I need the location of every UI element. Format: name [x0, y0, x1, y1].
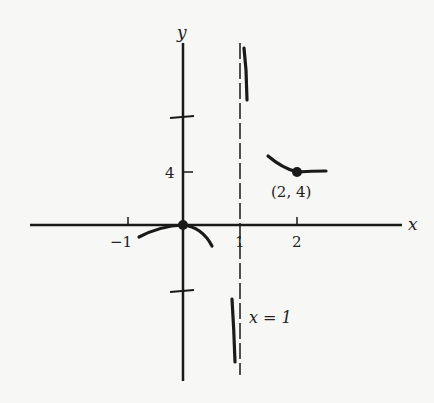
y-axis-break-upper — [170, 116, 194, 118]
y-axis-break-lower — [170, 290, 194, 292]
x-tick-label-neg1: −1 — [110, 233, 132, 251]
x-tick-label-2: 2 — [292, 233, 302, 251]
curve-local-max-origin — [139, 225, 212, 246]
min-point — [292, 167, 302, 177]
curve-lower-near-asymptote — [232, 299, 235, 362]
origin-point — [178, 220, 188, 230]
min-point-label: (2, 4) — [271, 183, 311, 201]
asymptote-label: x = 1 — [249, 308, 292, 327]
y-axis-label: y — [176, 22, 187, 42]
function-graph: y x −1 1 2 4 (2, 4) x = 1 — [0, 0, 434, 403]
x-tick-label-1: 1 — [235, 233, 245, 251]
x-axis-label: x — [408, 214, 418, 234]
curve-upper-near-asymptote — [244, 48, 247, 100]
y-tick-label-4: 4 — [165, 164, 175, 182]
